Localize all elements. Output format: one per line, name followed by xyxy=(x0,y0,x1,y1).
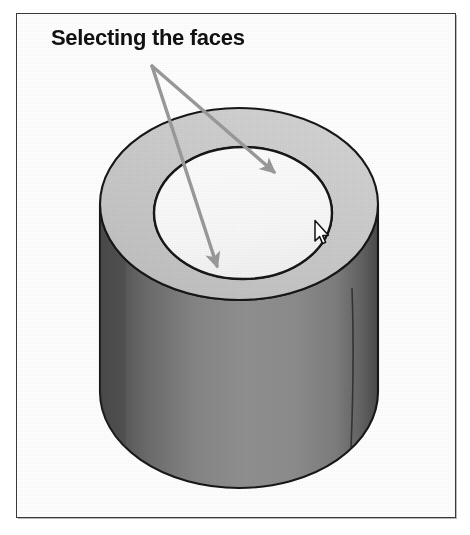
cylinder-inner-bore-face xyxy=(154,147,332,279)
mouse-cursor-icon xyxy=(313,219,331,247)
figure-root: Selecting the faces xyxy=(0,0,470,535)
cylinder-illustration xyxy=(0,0,470,535)
figure-caption: Selecting the faces xyxy=(51,27,245,49)
